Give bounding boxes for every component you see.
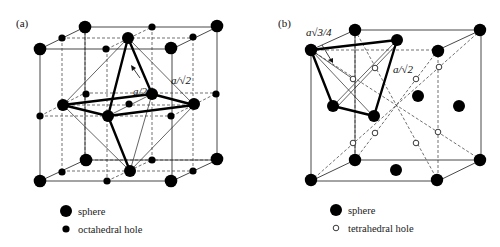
- face-diagonal-label: a/√2: [171, 74, 192, 86]
- octahedral-hole: [102, 45, 109, 52]
- sphere: [165, 175, 178, 188]
- sphere: [102, 110, 114, 122]
- octahedral-hole: [125, 100, 132, 107]
- tetrahedral-hole: [413, 140, 419, 146]
- sphere: [165, 42, 178, 55]
- sphere: [390, 164, 402, 176]
- tetra-edge: [311, 50, 374, 117]
- panel-a-half-edge-arrow: [131, 65, 140, 78]
- tetrahedral-hole: [372, 65, 378, 71]
- face-diagonal-label-b: a/√2: [393, 63, 414, 75]
- sphere: [211, 153, 224, 166]
- octahedral-hole: [58, 168, 65, 175]
- tetra-edge-thick: [333, 106, 374, 116]
- octahedral-hole: [82, 90, 89, 97]
- cube-edge: [438, 160, 481, 181]
- sphere: [80, 154, 93, 167]
- legend-sphere-icon: [330, 204, 342, 216]
- quarter-body-diagonal-label: a√3/4: [306, 26, 332, 38]
- sphere: [34, 43, 47, 56]
- legend-sphere-label: sphere: [78, 206, 106, 217]
- octahedral-hole: [148, 156, 155, 163]
- octahedral-hole: [148, 23, 155, 30]
- octahedral-hole: [189, 33, 196, 40]
- sphere: [391, 34, 403, 46]
- octahedral-hole: [36, 112, 43, 119]
- cube-edge: [438, 30, 481, 50]
- sphere: [474, 24, 486, 36]
- tetrahedral-hole: [436, 64, 442, 70]
- tetra-edge: [336, 42, 399, 108]
- legend-tetrahedral-hole-label: tetrahedral hole: [348, 223, 414, 234]
- panel-a-legend: sphere octahedral hole: [60, 205, 143, 235]
- sphere: [122, 32, 134, 44]
- legend-sphere-icon: [60, 205, 72, 217]
- octahedral-hole: [212, 90, 219, 97]
- sphere: [368, 110, 380, 122]
- octa-edge-thick: [108, 38, 128, 116]
- octa-edge-thick: [108, 105, 194, 116]
- sphere: [431, 174, 443, 186]
- legend-octahedral-hole-label: octahedral hole: [78, 224, 143, 235]
- sphere: [327, 100, 339, 112]
- legend-sphere-label-b: sphere: [348, 205, 376, 216]
- sphere: [349, 24, 361, 36]
- sphere: [211, 20, 224, 33]
- sphere: [432, 45, 444, 57]
- sphere: [124, 165, 136, 177]
- half-edge-label: a/2: [133, 85, 148, 97]
- sphere: [57, 99, 69, 111]
- octa-edge-thick: [152, 94, 194, 105]
- octahedral-hole: [103, 177, 110, 184]
- tetrahedral-hole: [435, 129, 441, 135]
- cube-edge: [311, 160, 355, 181]
- octa-edge-thick: [63, 105, 108, 116]
- sphere: [349, 154, 361, 166]
- tetrahedral-hole: [413, 76, 419, 82]
- sphere: [412, 90, 424, 102]
- sphere: [453, 100, 465, 112]
- sphere: [34, 175, 47, 188]
- sphere: [188, 98, 200, 110]
- tetrahedral-hole: [372, 130, 378, 136]
- sphere: [305, 174, 317, 186]
- panel-a: (a): [16, 17, 223, 235]
- tetrahedral-hole: [350, 76, 356, 82]
- octahedral-hole: [58, 34, 65, 41]
- panel-b-legend: sphere tetrahedral hole: [330, 204, 414, 234]
- legend-tetrahedral-hole-icon: [333, 225, 339, 231]
- octa-edge-thick: [108, 116, 130, 171]
- sphere: [474, 154, 486, 166]
- panel-b-label: (b): [278, 17, 291, 30]
- sphere: [79, 21, 92, 34]
- figure: (a): [0, 0, 500, 247]
- octahedral-hole: [189, 167, 196, 174]
- legend-octahedral-hole-icon: [62, 225, 69, 232]
- tetrahedral-hole: [350, 140, 356, 146]
- sphere: [146, 88, 158, 100]
- panel-b: (b): [278, 17, 486, 234]
- sphere: [305, 44, 317, 56]
- octahedral-hole: [167, 112, 174, 119]
- panel-a-label: (a): [16, 17, 29, 30]
